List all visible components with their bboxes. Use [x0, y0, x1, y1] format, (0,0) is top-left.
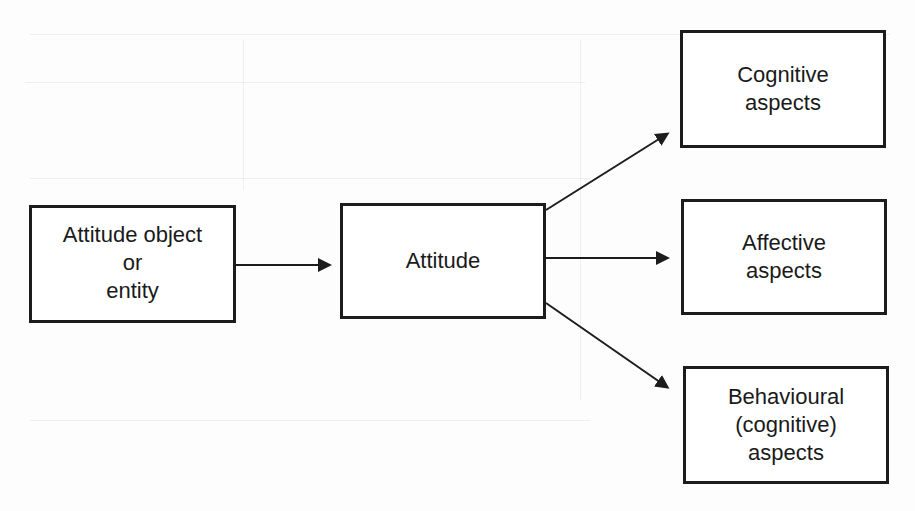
- node-attitude: Attitude: [340, 203, 546, 319]
- node-label-line: aspects: [748, 439, 824, 467]
- arrow-attitude-to-behavioural: [546, 303, 667, 387]
- node-label-line: Attitude object: [63, 221, 202, 249]
- node-label-line: Affective: [742, 229, 826, 257]
- diagram-canvas: Attitude object or entity Attitude Cogni…: [0, 0, 915, 511]
- node-label-line: entity: [106, 277, 159, 305]
- node-label-line: aspects: [746, 257, 822, 285]
- node-cognitive-aspects: Cognitive aspects: [680, 30, 886, 148]
- node-attitude-object: Attitude object or entity: [29, 205, 236, 323]
- node-label-line: Cognitive: [737, 61, 829, 89]
- node-affective-aspects: Affective aspects: [681, 199, 887, 315]
- node-label-line: (cognitive): [735, 411, 836, 439]
- node-label-line: Behavioural: [728, 383, 844, 411]
- node-label-line: aspects: [745, 89, 821, 117]
- arrow-attitude-to-cognitive: [546, 134, 667, 210]
- node-label-line: Attitude: [406, 247, 481, 275]
- node-behavioural-aspects: Behavioural (cognitive) aspects: [683, 366, 889, 484]
- node-label-line: or: [123, 249, 143, 277]
